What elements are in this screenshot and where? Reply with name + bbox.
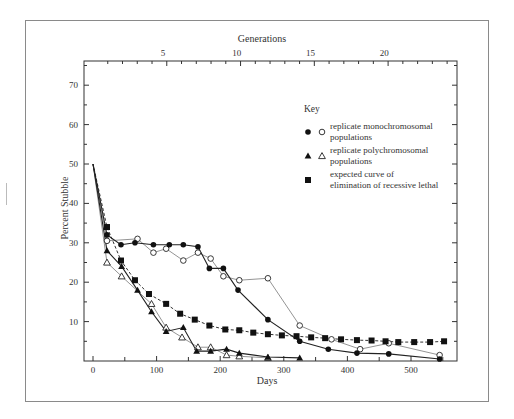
plot-area-border bbox=[84, 61, 457, 361]
legend-label-line1: expected curve of bbox=[330, 169, 394, 179]
y-tick-label: 60 bbox=[69, 120, 79, 130]
y-tick-label: 20 bbox=[69, 277, 79, 287]
open-triangle-marker bbox=[104, 259, 111, 265]
filled-square-marker bbox=[163, 301, 169, 307]
filled-square-marker bbox=[236, 327, 242, 333]
filled-circle-marker bbox=[207, 266, 213, 272]
filled-square-marker bbox=[427, 339, 433, 345]
plot-axes: 0100200300400500510152010203040506070 bbox=[69, 48, 457, 375]
open-circle-marker bbox=[329, 337, 335, 343]
y-tick-label: 70 bbox=[69, 80, 79, 90]
filled-square-marker bbox=[294, 333, 300, 339]
filled-circle-marker bbox=[104, 232, 110, 238]
open-circle-marker bbox=[151, 250, 157, 256]
filled-circle-marker bbox=[297, 339, 303, 345]
legend: Keyreplicate monochromosomalpopulationsr… bbox=[304, 104, 439, 190]
filled-square-marker bbox=[338, 336, 344, 342]
legend-label-line1: replicate polychromosomal bbox=[330, 145, 429, 155]
x2-tick-label: 5 bbox=[161, 48, 166, 58]
x-tick-label: 100 bbox=[150, 365, 164, 375]
filled-square-marker bbox=[177, 311, 183, 317]
filled-circle-marker bbox=[195, 244, 201, 250]
filled-square-marker bbox=[250, 330, 256, 336]
open-circle-marker bbox=[319, 129, 325, 135]
x-tick-label: 0 bbox=[91, 365, 96, 375]
days-axis-label: Days bbox=[257, 375, 278, 386]
filled-square-marker bbox=[146, 291, 152, 297]
filled-square-marker bbox=[118, 258, 124, 264]
filled-square-marker bbox=[222, 326, 228, 332]
series-line bbox=[93, 164, 444, 342]
open-circle-marker bbox=[236, 277, 242, 283]
generations-axis-label: Generations bbox=[238, 33, 286, 44]
filled-circle-marker bbox=[181, 242, 187, 248]
x-tick-label: 400 bbox=[341, 365, 355, 375]
filled-square-marker bbox=[354, 337, 360, 343]
x-tick-label: 200 bbox=[213, 365, 227, 375]
filled-square-marker bbox=[411, 339, 417, 345]
filled-square-marker bbox=[279, 332, 285, 338]
open-circle-marker bbox=[265, 275, 271, 281]
legend-label-line2: elimination of recessive lethal bbox=[330, 180, 439, 190]
percent-stubble-axis-label: Percent Stubble bbox=[59, 176, 70, 240]
filled-square-marker bbox=[383, 338, 389, 344]
filled-triangle-marker bbox=[134, 287, 141, 293]
y-tick-label: 50 bbox=[69, 159, 79, 169]
x2-tick-label: 10 bbox=[232, 48, 242, 58]
open-triangle-marker bbox=[223, 352, 230, 358]
filled-triangle-marker bbox=[148, 308, 155, 314]
x2-tick-label: 15 bbox=[306, 48, 316, 58]
chart: 0100200300400500510152010203040506070 Ke… bbox=[0, 0, 514, 419]
filled-circle-marker bbox=[221, 266, 227, 272]
legend-label-line2: populations bbox=[330, 156, 372, 166]
filled-circle-marker bbox=[305, 129, 311, 135]
filled-square-marker bbox=[395, 339, 401, 345]
open-circle-marker bbox=[221, 273, 227, 279]
filled-circle-marker bbox=[437, 356, 443, 362]
filled-circle-marker bbox=[326, 346, 332, 352]
filled-square-marker bbox=[206, 323, 212, 329]
open-circle-marker bbox=[181, 258, 187, 264]
open-triangle-marker bbox=[179, 334, 186, 340]
filled-triangle-marker bbox=[305, 153, 312, 159]
series-line bbox=[93, 164, 440, 355]
x-tick-label: 300 bbox=[277, 365, 291, 375]
y-tick-label: 30 bbox=[69, 238, 79, 248]
filled-square-marker bbox=[104, 224, 110, 230]
legend-label-line2: populations bbox=[330, 132, 372, 142]
plot-series bbox=[93, 164, 447, 362]
filled-square-marker bbox=[308, 334, 314, 340]
filled-circle-marker bbox=[265, 317, 271, 323]
series-line bbox=[93, 164, 440, 359]
filled-square-marker bbox=[265, 331, 271, 337]
open-circle-marker bbox=[297, 323, 303, 329]
open-triangle-marker bbox=[319, 153, 326, 159]
filled-square-marker bbox=[441, 338, 447, 344]
legend-title: Key bbox=[304, 104, 320, 114]
x2-tick-label: 20 bbox=[380, 48, 390, 58]
filled-circle-marker bbox=[386, 351, 392, 357]
filled-square-marker bbox=[192, 317, 198, 323]
open-circle-marker bbox=[104, 238, 110, 244]
filled-triangle-marker bbox=[180, 324, 187, 330]
filled-square-marker bbox=[369, 338, 375, 344]
series-line bbox=[93, 164, 300, 358]
filled-square-marker bbox=[305, 177, 311, 183]
open-circle-marker bbox=[195, 250, 201, 256]
filled-circle-marker bbox=[151, 242, 157, 248]
filled-square-marker bbox=[322, 335, 328, 341]
y-tick-label: 40 bbox=[69, 198, 79, 208]
filled-circle-marker bbox=[132, 240, 138, 246]
open-circle-marker bbox=[208, 256, 214, 262]
filled-square-marker bbox=[132, 277, 138, 283]
legend-label-line1: replicate monochromosomal bbox=[330, 121, 433, 131]
y-tick-label: 10 bbox=[69, 317, 79, 327]
filled-circle-marker bbox=[354, 350, 360, 356]
x-tick-label: 500 bbox=[404, 365, 418, 375]
filled-circle-marker bbox=[235, 287, 241, 293]
filled-circle-marker bbox=[118, 242, 124, 248]
filled-triangle-marker bbox=[223, 346, 230, 352]
filled-circle-marker bbox=[167, 242, 173, 248]
